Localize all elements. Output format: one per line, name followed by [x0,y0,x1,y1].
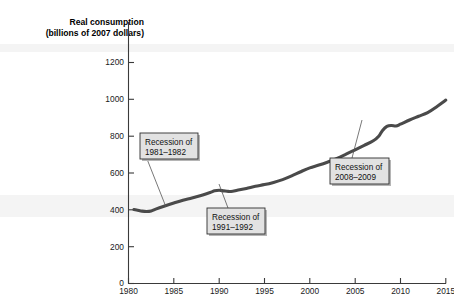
consumption-line-chart-figure: Real consumption (billions of 2007 dolla… [0,0,454,308]
callout-text-line2-recession-1981-1982: 1981–1982 [145,148,186,157]
x-tick-label-2000: 2000 [300,286,319,296]
y-tick-label-400: 400 [110,205,124,215]
x-tick-label-2005: 2005 [346,286,365,296]
chart-svg: Real consumption (billions of 2007 dolla… [0,0,454,308]
x-tick-label-1995: 1995 [255,286,274,296]
y-tick-label-600: 600 [110,168,124,178]
x-tick-label-1985: 1985 [164,286,183,296]
y-axis-title-line1: Real consumption [70,17,145,27]
callout-text-line1-recession-2008-2009: Recession of [335,163,383,172]
x-tick-label-2010: 2010 [391,286,410,296]
callout-text-line1-recession-1981-1982: Recession of [145,138,193,147]
y-tick-label-800: 800 [110,131,124,141]
x-tick-label-1990: 1990 [210,286,229,296]
scan-artifact-band-upper [0,44,454,52]
x-tick-label-1980: 1980 [119,286,138,296]
callout-text-line2-recession-1991-1992: 1991–1992 [212,223,253,232]
y-axis-title-line2: (billions of 2007 dollars) [46,28,145,38]
y-tick-label-1200: 1200 [105,57,124,67]
callout-text-line1-recession-1991-1992: Recession of [212,213,260,222]
y-tick-label-1000: 1000 [105,94,124,104]
y-tick-label-200: 200 [110,242,124,252]
callout-text-line2-recession-2008-2009: 2008–2009 [335,173,376,182]
x-tick-label-2015: 2015 [436,286,454,296]
